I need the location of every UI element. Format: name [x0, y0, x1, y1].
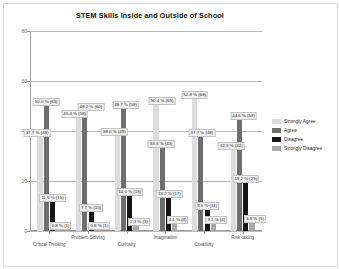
bar-value-label: 45.4 % (58) — [61, 110, 88, 118]
bar-value-label: 3.1 % (4) — [205, 216, 227, 224]
bar-value-label: 50.4 % (65) — [149, 97, 176, 105]
x-tick-label: Curiosity — [118, 242, 136, 247]
bar-value-label: 2.3 % (3) — [128, 218, 150, 226]
legend-swatch-icon — [272, 137, 281, 142]
x-tick-mark — [243, 231, 244, 234]
x-tick-mark — [165, 231, 166, 234]
x-tick-mark — [88, 231, 89, 234]
bar-value-label: 33.3 % (43) — [148, 140, 175, 148]
legend-swatch-icon — [272, 128, 281, 133]
legend-swatch-icon — [272, 146, 281, 151]
x-tick-label: Problem Solving — [71, 235, 104, 240]
stem-skills-bar-chart: STEM Skills Inside and Outside of School… — [0, 0, 340, 269]
legend-item-label: Strongly Disagree — [284, 146, 322, 151]
x-tick-mark — [49, 231, 50, 234]
legend-item[interactable]: Disagree — [272, 135, 322, 144]
gridline — [30, 231, 262, 232]
x-tick-label: Critical Thinking — [33, 242, 66, 247]
x-tick-mark — [204, 231, 205, 234]
bar-value-label: 13.2 % (17) — [156, 190, 183, 198]
bar-value-label: 8.5 % (11) — [195, 202, 219, 210]
bar-value-label: 37.7 % (48) — [24, 129, 51, 137]
y-tick-mark — [27, 231, 30, 232]
chart-title: STEM Skills Inside and Outside of School — [0, 11, 300, 20]
bar-value-label: 19.2 % (25) — [232, 175, 259, 183]
bar-value-label: 44.6 % (58) — [230, 112, 257, 120]
legend-item-label: Agree — [284, 128, 297, 133]
bar-value-label: 48.7 % (58) — [112, 101, 139, 109]
legend-item[interactable]: Strongly Agree — [272, 117, 322, 126]
bar[interactable] — [243, 183, 248, 231]
bar-value-label: 11.5 % (15) — [39, 194, 65, 202]
plot-area: 020406080 37.7 % (48)50.0 % (65)11.5 % (… — [30, 31, 262, 231]
bar-value-label: 7.7 % (10) — [79, 204, 103, 212]
x-tick-label: Creativity — [194, 242, 213, 247]
bar-value-label: 38.0 % (49) — [101, 128, 128, 136]
bar-value-label: 14.0 % (18) — [116, 188, 143, 196]
bar[interactable] — [249, 222, 254, 232]
legend-item[interactable]: Agree — [272, 126, 322, 135]
legend-item-label: Disagree — [284, 137, 303, 142]
bar-value-label: 0.8 % (1) — [50, 222, 72, 230]
bar[interactable] — [231, 150, 236, 231]
bar-value-label: 52.8 % (68) — [181, 91, 208, 99]
bar-value-label: 3.1 % (4) — [167, 216, 189, 224]
chart-legend: Strongly AgreeAgreeDisagreeStrongly Disa… — [272, 117, 322, 153]
bar-value-label: 0.8 % (1) — [88, 222, 110, 230]
x-tick-mark — [127, 231, 128, 234]
legend-swatch-icon — [272, 119, 281, 124]
legend-item[interactable]: Strongly Disagree — [272, 144, 322, 153]
bar-value-label: 48.2 % (60) — [78, 103, 105, 111]
x-tick-label: Risk-taking — [231, 235, 254, 240]
bar-value-label: 37.7 % (48) — [189, 129, 216, 137]
bar-value-label: 32.3 % (42) — [218, 142, 245, 150]
x-tick-label: Imagination — [153, 235, 177, 240]
bar-value-label: 50.0 % (65) — [33, 98, 60, 106]
bar-value-label: 3.8 % (5) — [244, 215, 266, 223]
legend-item-label: Strongly Agree — [284, 119, 315, 124]
